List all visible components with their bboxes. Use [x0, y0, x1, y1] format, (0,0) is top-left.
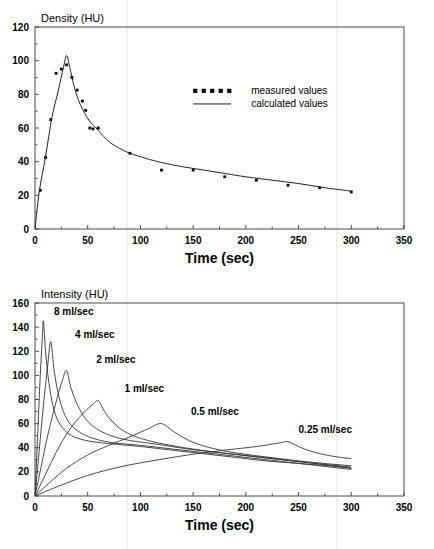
x-tick-label: 300 — [343, 235, 360, 246]
legend: measured valuescalculated values — [193, 85, 328, 109]
x-tick-label: 50 — [82, 235, 94, 246]
curve-label-8-ml-sec: 8 ml/sec — [54, 306, 94, 317]
data-point-marker — [76, 89, 79, 92]
y-tick-label: 20 — [18, 190, 30, 201]
data-point-marker — [287, 184, 290, 187]
legend-label-calculated: calculated values — [251, 98, 328, 109]
curve-label-2-ml-sec: 2 ml/sec — [96, 354, 136, 365]
y-tick-label: 140 — [12, 322, 29, 333]
y-axis-title: Density (HU) — [41, 12, 104, 24]
y-tick-label: 100 — [12, 55, 29, 66]
curve-label-4-ml-sec: 4 ml/sec — [75, 329, 115, 340]
x-axis-title: Time (sec) — [185, 250, 254, 266]
y-tick-label: 60 — [18, 123, 30, 134]
y-tick-label: 60 — [18, 418, 30, 429]
data-point-marker — [55, 72, 58, 75]
x-axis-title: Time (sec) — [185, 517, 254, 533]
curve-label-0-5-ml-sec: 0.5 ml/sec — [191, 406, 239, 417]
legend-marker-measured — [227, 89, 231, 93]
intensity-chart-panel: 0204060801001201401600501001502002503003… — [0, 275, 434, 549]
y-tick-label: 160 — [12, 298, 29, 309]
x-tick-label: 250 — [290, 235, 307, 246]
legend-marker-measured — [219, 89, 223, 93]
y-tick-label: 40 — [18, 442, 30, 453]
curve-label-0-25-ml-sec: 0.25 ml/sec — [299, 424, 353, 435]
y-tick-label: 120 — [12, 22, 29, 33]
x-tick-label: 0 — [32, 502, 38, 513]
x-tick-label: 250 — [290, 502, 307, 513]
x-tick-label: 350 — [396, 235, 413, 246]
y-axis-title: Intensity (HU) — [41, 288, 108, 300]
x-tick-label: 0 — [32, 235, 38, 246]
series-curve-4-ml-sec — [35, 342, 351, 496]
y-tick-label: 100 — [12, 370, 29, 381]
y-tick-label: 0 — [23, 491, 29, 502]
y-tick-label: 80 — [18, 394, 30, 405]
data-point-marker — [160, 169, 163, 172]
x-tick-label: 200 — [238, 235, 255, 246]
density-chart-svg: 020406080100120050100150200250300350Dens… — [0, 0, 434, 275]
data-point-marker — [81, 100, 84, 103]
x-tick-label: 350 — [396, 502, 413, 513]
x-tick-label: 50 — [82, 502, 94, 513]
y-tick-label: 40 — [18, 156, 30, 167]
density-chart-panel: 020406080100120050100150200250300350Dens… — [0, 0, 434, 275]
data-point-marker — [60, 68, 63, 71]
legend-marker-measured — [202, 89, 206, 93]
legend-marker-measured — [210, 89, 214, 93]
y-tick-label: 80 — [18, 89, 30, 100]
intensity-chart-svg: 0204060801001201401600501001502002503003… — [0, 275, 434, 549]
y-tick-label: 120 — [12, 346, 29, 357]
legend-marker-measured — [193, 89, 197, 93]
x-tick-label: 300 — [343, 502, 360, 513]
data-point-marker — [255, 179, 258, 182]
y-tick-label: 0 — [23, 224, 29, 235]
x-tick-label: 100 — [132, 502, 149, 513]
x-tick-label: 150 — [185, 235, 202, 246]
data-point-marker — [92, 127, 95, 130]
x-tick-label: 200 — [238, 502, 255, 513]
legend-label-measured: measured values — [251, 85, 327, 96]
x-tick-label: 100 — [132, 235, 149, 246]
data-point-marker — [223, 175, 226, 178]
y-tick-label: 20 — [18, 466, 30, 477]
curve-label-1-ml-sec: 1 ml/sec — [125, 383, 165, 394]
series-curve-calculated-values — [35, 56, 351, 229]
series-group — [35, 56, 353, 229]
data-point-marker — [84, 109, 87, 112]
data-point-marker — [88, 127, 91, 130]
data-point-marker — [65, 63, 68, 66]
x-tick-label: 150 — [185, 502, 202, 513]
